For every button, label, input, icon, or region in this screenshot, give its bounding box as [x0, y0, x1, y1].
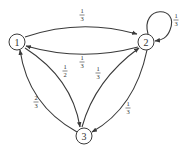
- svg-text:2: 2: [144, 37, 149, 48]
- svg-text:3: 3: [174, 20, 177, 27]
- svg-text:1: 1: [126, 100, 129, 107]
- label-3-1: 2 3: [34, 94, 39, 109]
- node-3: 3: [76, 128, 92, 144]
- svg-text:1: 1: [80, 54, 83, 61]
- svg-text:2: 2: [34, 94, 37, 101]
- edge-3-2: [82, 48, 139, 127]
- edge-1-2: [25, 27, 137, 37]
- svg-text:3: 3: [80, 15, 83, 22]
- state-diagram: 1 2 3 1 3 1 3 1 3 1 2 1: [0, 0, 185, 150]
- svg-text:3: 3: [80, 62, 83, 69]
- svg-text:1: 1: [174, 12, 177, 19]
- svg-text:3: 3: [126, 108, 129, 115]
- label-2-2: 1 3: [174, 12, 179, 27]
- edge-3-1: [20, 50, 77, 132]
- label-2-3: 1 3: [126, 100, 131, 115]
- svg-text:1: 1: [80, 7, 83, 14]
- diagram-svg: 1 2 3 1 3 1 3 1 3 1 2 1: [0, 0, 185, 150]
- svg-text:3: 3: [34, 102, 37, 109]
- label-1-3: 1 2: [63, 63, 68, 78]
- svg-text:3: 3: [82, 131, 87, 142]
- svg-text:1: 1: [63, 63, 66, 70]
- edge-2-3: [92, 50, 147, 132]
- label-3-2: 1 3: [96, 65, 101, 80]
- svg-text:1: 1: [96, 65, 99, 72]
- svg-text:3: 3: [96, 73, 99, 80]
- node-1: 1: [9, 34, 25, 50]
- svg-text:1: 1: [15, 37, 20, 48]
- node-2: 2: [138, 34, 154, 50]
- label-1-2: 1 3: [80, 7, 85, 22]
- label-2-1: 1 3: [80, 54, 85, 69]
- svg-text:2: 2: [63, 71, 66, 78]
